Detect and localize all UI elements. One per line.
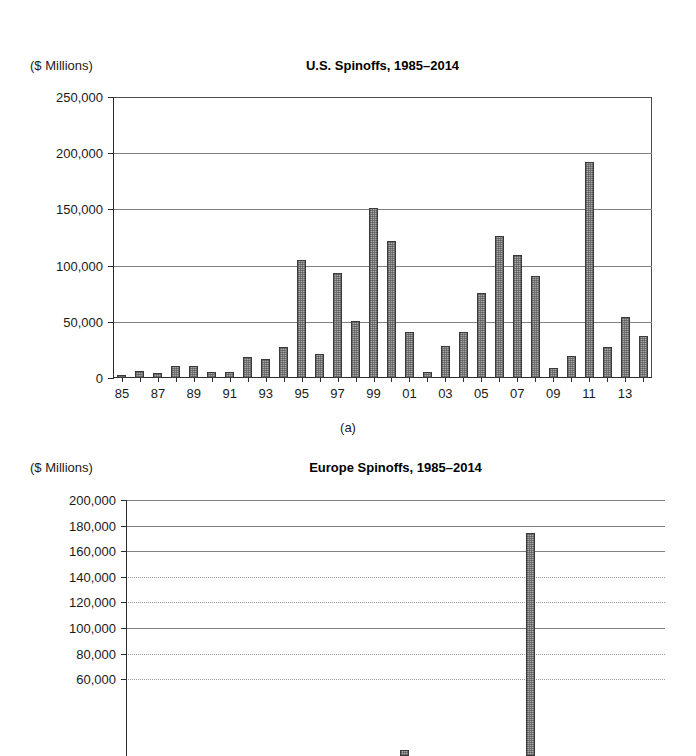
x-tick-label: 09 <box>546 386 560 401</box>
y-tick-mark <box>121 577 127 578</box>
bar <box>495 236 504 378</box>
chart-europe-spinoffs: ($ Millions) Europe Spinoffs, 1985–2014 … <box>0 455 696 740</box>
y-tick-mark <box>121 679 127 680</box>
y-tick-mark <box>108 266 114 267</box>
bar <box>639 336 648 378</box>
x-tick-mark <box>427 378 428 382</box>
x-tick-mark <box>176 378 177 382</box>
x-tick-mark <box>266 378 267 382</box>
chart-title-europe: Europe Spinoffs, 1985–2014 <box>126 460 665 475</box>
y-tick-mark <box>108 322 114 323</box>
y-tick-label: 200,000 <box>0 146 103 161</box>
x-tick-mark <box>302 378 303 382</box>
gridline <box>126 500 665 501</box>
x-tick-mark <box>356 378 357 382</box>
bar <box>441 346 450 378</box>
gridline <box>113 266 652 267</box>
plot-area-europe <box>126 500 665 756</box>
y-tick-label: 140,000 <box>0 569 116 584</box>
bar <box>369 208 378 378</box>
x-tick-mark <box>589 378 590 382</box>
x-tick-label: 01 <box>402 386 416 401</box>
y-tick-mark <box>121 551 127 552</box>
gridline <box>126 654 665 655</box>
x-tick-mark <box>535 378 536 382</box>
bar <box>279 347 288 378</box>
x-tick-mark <box>391 378 392 382</box>
y-tick-label: 60,000 <box>0 672 116 687</box>
x-tick-label: 91 <box>223 386 237 401</box>
x-tick-mark <box>230 378 231 382</box>
gridline <box>126 628 665 629</box>
gridline <box>113 153 652 154</box>
bar <box>189 366 198 378</box>
x-tick-label: 03 <box>438 386 452 401</box>
chart-title-us: U.S. Spinoffs, 1985–2014 <box>113 58 652 73</box>
y-tick-label: 160,000 <box>0 544 116 559</box>
plot-top-border-us <box>113 97 652 98</box>
y-tick-mark <box>121 628 127 629</box>
y-tick-mark <box>121 602 127 603</box>
y-tick-mark <box>108 97 114 98</box>
x-tick-mark <box>248 378 249 382</box>
x-tick-mark <box>517 378 518 382</box>
bar <box>405 332 414 378</box>
x-tick-label: 99 <box>366 386 380 401</box>
x-tick-mark <box>607 378 608 382</box>
x-tick-mark <box>140 378 141 382</box>
x-tick-mark <box>122 378 123 382</box>
x-tick-mark <box>643 378 644 382</box>
bar <box>243 357 252 378</box>
chart-us-spinoffs: ($ Millions) U.S. Spinoffs, 1985–2014 05… <box>0 0 696 440</box>
bar <box>135 371 144 378</box>
x-tick-label: 05 <box>474 386 488 401</box>
x-tick-label: 11 <box>582 386 596 401</box>
y-tick-mark <box>108 378 114 379</box>
bar <box>549 368 558 378</box>
bar <box>171 366 180 378</box>
y-tick-label: 80,000 <box>0 646 116 661</box>
x-tick-mark <box>463 378 464 382</box>
bar <box>477 293 486 378</box>
x-tick-mark <box>284 378 285 382</box>
x-tick-mark <box>158 378 159 382</box>
x-tick-mark <box>374 378 375 382</box>
bar <box>603 347 612 378</box>
x-tick-mark <box>445 378 446 382</box>
y-tick-label: 200,000 <box>0 493 116 508</box>
bar <box>297 260 306 378</box>
gridline <box>126 526 665 527</box>
bar <box>261 359 270 378</box>
y-tick-label: 100,000 <box>0 621 116 636</box>
x-tick-mark <box>194 378 195 382</box>
x-tick-label: 95 <box>294 386 308 401</box>
x-tick-label: 07 <box>510 386 524 401</box>
x-tick-mark <box>625 378 626 382</box>
bar <box>315 354 324 378</box>
gridline <box>126 577 665 578</box>
plot-area-us <box>113 97 652 378</box>
gridline <box>126 679 665 680</box>
bar <box>387 241 396 378</box>
x-tick-mark <box>553 378 554 382</box>
gridline <box>113 209 652 210</box>
bar <box>351 321 360 378</box>
bar <box>585 162 594 378</box>
y-tick-label: 250,000 <box>0 90 103 105</box>
x-tick-mark <box>409 378 410 382</box>
bar <box>526 533 535 756</box>
bar <box>333 273 342 378</box>
y-tick-label: 100,000 <box>0 258 103 273</box>
x-tick-label: 85 <box>115 386 129 401</box>
y-axis-units-label-europe: ($ Millions) <box>30 460 93 475</box>
y-tick-mark <box>121 500 127 501</box>
x-tick-label: 89 <box>187 386 201 401</box>
y-tick-label: 150,000 <box>0 202 103 217</box>
y-tick-mark <box>108 153 114 154</box>
gridline <box>126 551 665 552</box>
x-tick-label: 93 <box>258 386 272 401</box>
bar <box>400 750 409 756</box>
y-tick-label: 120,000 <box>0 595 116 610</box>
bar <box>621 317 630 378</box>
y-tick-mark <box>121 654 127 655</box>
